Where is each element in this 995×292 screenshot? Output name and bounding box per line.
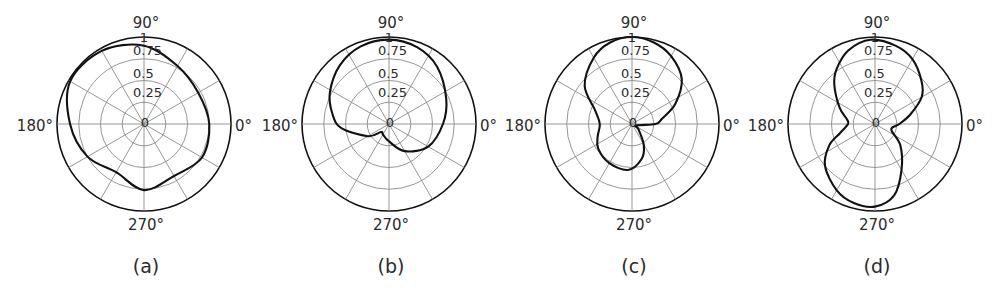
r-tick-label-1: 1 [385,30,393,45]
panel-label: (c) [621,255,646,277]
angle-label-0: 0° [480,117,497,135]
angle-label-270: 270° [373,216,409,234]
polar-plot-a: 90°180°0°270°00.250.50.751(a) [17,14,252,277]
angle-label-0: 0° [966,117,983,135]
polar-plot-figure: 90°180°0°270°00.250.50.751(a) 90°180°0°2… [0,0,995,292]
angle-label-180: 180° [748,117,784,135]
r-tick-label-0: 0 [386,115,394,130]
r-tick-label-0: 0 [629,115,637,130]
angle-label-270: 270° [616,216,652,234]
r-tick-label-0: 0 [872,115,880,130]
angle-label-0: 0° [723,117,740,135]
r-tick-label-0.75: 0.75 [378,43,407,58]
panel-label: (b) [378,255,405,277]
r-tick-label-0.25: 0.25 [133,85,162,100]
r-tick-label-0.75: 0.75 [621,43,650,58]
r-tick-label-1: 1 [140,30,148,45]
r-tick-label-0.75: 0.75 [133,43,162,58]
r-tick-label-0.25: 0.25 [378,85,407,100]
r-tick-label-0.5: 0.5 [621,66,642,81]
angle-label-180: 180° [17,117,53,135]
r-tick-label-0.25: 0.25 [621,85,650,100]
r-tick-label-1: 1 [871,30,879,45]
r-tick-label-1: 1 [628,30,636,45]
angle-label-270: 270° [128,216,164,234]
r-tick-label-0: 0 [141,115,149,130]
r-tick-label-0.5: 0.5 [133,66,154,81]
polar-plot-c: 90°180°0°270°00.250.50.751(c) [505,14,740,277]
r-tick-label-0.75: 0.75 [864,43,893,58]
polar-plot-d: 90°180°0°270°00.250.50.751(d) [748,14,983,277]
angle-label-270: 270° [859,216,895,234]
angle-label-180: 180° [505,117,541,135]
panel-label: (a) [133,255,159,277]
polar-plot-b: 90°180°0°270°00.250.50.751(b) [262,14,497,277]
r-tick-label-0.5: 0.5 [378,66,399,81]
r-tick-label-0.25: 0.25 [864,85,893,100]
panel-label: (d) [864,255,891,277]
angle-label-180: 180° [262,117,298,135]
r-tick-label-0.5: 0.5 [864,66,885,81]
angle-label-0: 0° [235,117,252,135]
